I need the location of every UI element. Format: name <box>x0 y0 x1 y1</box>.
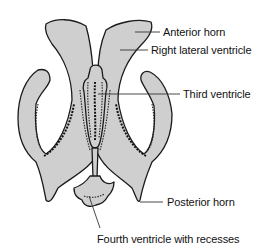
label-third-ventricle: Third ventricle <box>183 88 251 100</box>
label-right-lateral-ventricle: Right lateral ventricle <box>151 44 251 56</box>
label-fourth-ventricle: Fourth ventricle with recesses <box>97 233 240 245</box>
label-anterior-horn: Anterior horn <box>163 26 225 38</box>
fourth-ventricle-shape <box>74 176 114 206</box>
label-posterior-horn: Posterior horn <box>167 196 235 208</box>
ventricular-system-diagram <box>0 0 267 248</box>
cerebral-aqueduct <box>92 148 98 178</box>
